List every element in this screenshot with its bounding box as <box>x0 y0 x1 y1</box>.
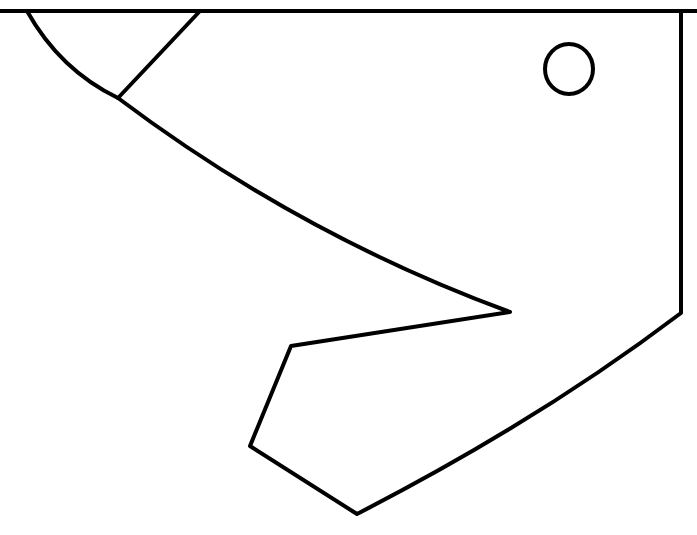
eye-circle <box>545 44 593 94</box>
diagram-canvas <box>0 0 697 535</box>
shape-outline <box>27 11 681 514</box>
inner-diagonal-line <box>118 11 200 98</box>
